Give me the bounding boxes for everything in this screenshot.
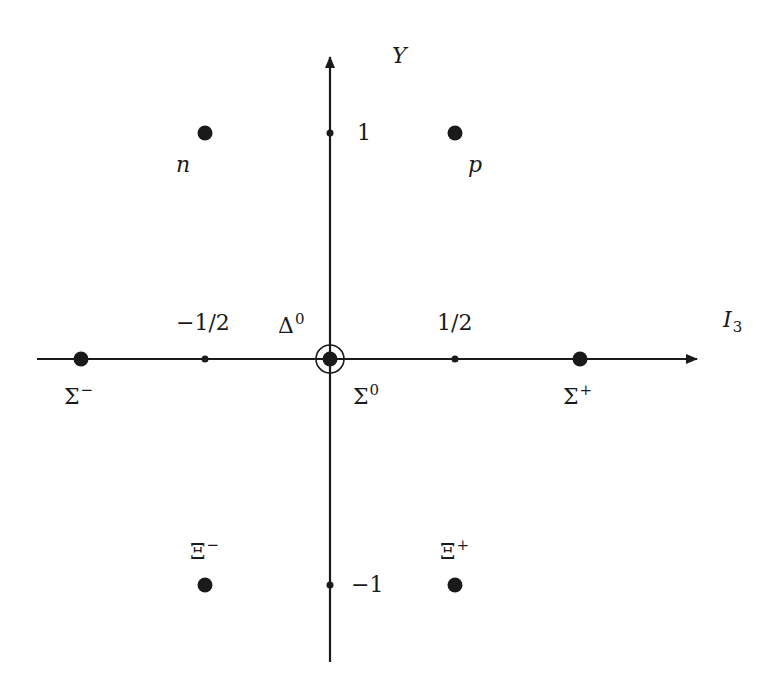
- tick-label-x-pos-half: 1/2: [437, 312, 472, 334]
- tick-label-y-one: 1: [357, 122, 371, 144]
- particle-label-xi-plus: Ξ+: [440, 538, 469, 563]
- tick-dot-x-pos-half: [452, 356, 459, 363]
- particle-label-sigma-zero: Σ0: [353, 383, 379, 408]
- particle-dot-sigma-zero: [323, 352, 338, 367]
- particle-label-sigma-plus: Σ+: [563, 383, 592, 408]
- particle-dot-sigma-plus: [573, 352, 588, 367]
- weight-diagram: Y I3 −1/2 1/2 1 −1 n p Σ− Σ0 Δ0 Σ+ Ξ− Ξ+: [0, 0, 777, 685]
- particle-dot-p: [448, 126, 463, 141]
- i3-axis-label: I3: [723, 309, 742, 335]
- particle-dot-xi-minus: [198, 578, 213, 593]
- particle-label-delta-zero: Δ0: [278, 312, 304, 337]
- y-axis-label: Y: [392, 45, 407, 67]
- particle-label-xi-minus: Ξ−: [190, 538, 219, 563]
- tick-dot-y-neg-one: [327, 582, 334, 589]
- tick-label-y-neg-one: −1: [351, 574, 383, 596]
- particle-label-n: n: [176, 154, 190, 176]
- particle-dot-sigma-minus: [74, 352, 89, 367]
- particle-dot-n: [198, 126, 213, 141]
- tick-dot-x-neg-half: [202, 356, 209, 363]
- particle-label-p: p: [468, 154, 482, 176]
- tick-dot-y-one: [327, 130, 334, 137]
- diagram-canvas: [0, 0, 777, 685]
- tick-label-x-neg-half: −1/2: [176, 312, 230, 334]
- particle-label-sigma-minus: Σ−: [64, 383, 93, 408]
- particle-dot-xi-plus: [448, 578, 463, 593]
